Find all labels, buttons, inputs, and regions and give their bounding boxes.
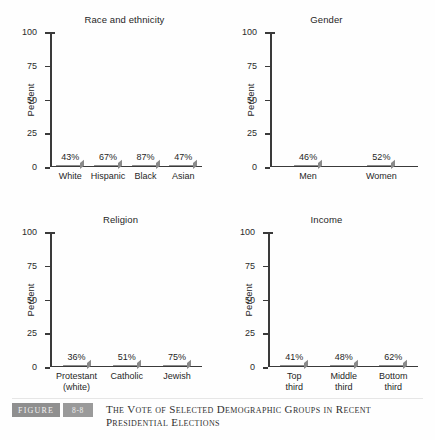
x-axis-line xyxy=(270,166,418,168)
bar-top-face xyxy=(193,159,197,168)
plot-area: Percent 100 75 50 25 0 43% xyxy=(50,32,202,167)
y-tick: 25 xyxy=(45,133,50,135)
bar-top-face xyxy=(187,359,191,368)
x-tick-label: Catholic xyxy=(102,371,152,392)
bar-slot: 87% xyxy=(127,32,165,166)
chart-title: Gender xyxy=(218,14,435,25)
y-tick: 100 xyxy=(45,232,50,234)
y-tick: 75 xyxy=(45,266,50,268)
bar[interactable]: 48% xyxy=(330,365,358,366)
x-axis-labels: White Hispanic Black Asian xyxy=(52,171,203,182)
bar-group: 46% 52% xyxy=(272,32,419,166)
bar-slot: 75% xyxy=(152,232,202,366)
bar-face xyxy=(367,165,391,166)
bar[interactable]: 36% xyxy=(63,365,91,366)
y-tick-label: 100 xyxy=(240,227,255,237)
y-tick-label: 75 xyxy=(247,61,257,71)
figure-caption-text: The Vote of Selected Demographic Groups … xyxy=(106,403,371,429)
y-tick-label: 100 xyxy=(22,27,37,37)
y-tick-label: 50 xyxy=(27,95,37,105)
bar-top-face xyxy=(304,359,308,368)
x-tick-label-line: third xyxy=(369,382,419,393)
y-tick-label: 100 xyxy=(242,27,257,37)
x-tick-label-line: Catholic xyxy=(102,371,152,382)
bar-slot: 62% xyxy=(369,232,419,366)
bar-slot: 43% xyxy=(52,32,90,166)
bar[interactable]: 52% xyxy=(367,165,395,166)
bar-face xyxy=(94,165,118,166)
bar-top-face xyxy=(80,159,84,168)
x-axis-labels: Protestant (white) Catholic Jewish xyxy=(52,371,203,392)
bar-face xyxy=(56,165,80,166)
y-tick-label: 50 xyxy=(245,295,255,305)
bar-face xyxy=(132,165,156,166)
x-tick-label-line: Top xyxy=(270,371,320,382)
bar[interactable]: 87% xyxy=(132,165,160,166)
bar[interactable]: 67% xyxy=(94,165,122,166)
bar-face xyxy=(113,365,137,366)
x-tick-label: Hispanic xyxy=(89,171,127,182)
bar-top-face xyxy=(87,359,91,368)
x-tick-label: Bottom third xyxy=(369,371,419,392)
bar-value-label: 52% xyxy=(372,152,390,162)
bar-value-label: 67% xyxy=(99,152,117,162)
y-tick-label: 75 xyxy=(245,261,255,271)
bar-face xyxy=(163,365,187,366)
bar-top-face xyxy=(156,159,160,168)
bar-slot: 52% xyxy=(345,32,418,166)
x-tick-label: White xyxy=(52,171,90,182)
bar-group: 41% 48% xyxy=(270,232,419,366)
bar-slot: 67% xyxy=(89,32,127,166)
bar-slot: 48% xyxy=(319,232,369,366)
y-tick: 0 xyxy=(45,367,50,369)
x-axis-line xyxy=(50,366,202,368)
bar-top-face xyxy=(118,159,122,168)
bar[interactable]: 41% xyxy=(280,365,308,366)
bar-face xyxy=(294,165,318,166)
y-tick: 100 xyxy=(45,32,50,34)
figure-number-badge: 8-8 xyxy=(63,403,93,417)
x-tick-label: Middle third xyxy=(319,371,369,392)
bar[interactable]: 75% xyxy=(163,365,191,366)
x-tick-label: Asian xyxy=(164,171,202,182)
x-tick-label-line: Bottom xyxy=(369,371,419,382)
caption-line: The Vote of Selected Demographic Groups … xyxy=(106,403,371,416)
caption-line: Presidential Elections xyxy=(106,416,371,429)
chart-panel-income: Income Percent 100 75 50 25 0 41% xyxy=(218,200,435,399)
bar[interactable]: 47% xyxy=(169,165,197,166)
y-tick: 25 xyxy=(263,333,268,335)
bar[interactable]: 46% xyxy=(294,165,322,166)
x-tick-label: Women xyxy=(345,171,418,182)
x-tick-label-line: Protestant xyxy=(52,371,102,382)
bar-face xyxy=(169,165,193,166)
bar-value-label: 47% xyxy=(174,152,192,162)
y-tick: 75 xyxy=(45,66,50,68)
y-tick-label: 25 xyxy=(27,128,37,138)
y-tick-label: 0 xyxy=(32,362,37,372)
y-tick-label: 25 xyxy=(247,128,257,138)
y-tick-label: 0 xyxy=(252,162,257,172)
bar-slot: 36% xyxy=(52,232,102,366)
bar[interactable]: 51% xyxy=(113,365,141,366)
figure-caption: FIGURE 8-8 The Vote of Selected Demograp… xyxy=(0,398,435,440)
bar[interactable]: 43% xyxy=(56,165,84,166)
bar-top-face xyxy=(318,159,322,168)
y-tick: 75 xyxy=(265,66,270,68)
bar-top-face xyxy=(354,359,358,368)
bar-slot: 47% xyxy=(164,32,202,166)
chart-panel-grid: Race and ethnicity Percent 100 75 50 25 … xyxy=(0,0,435,398)
bar-slot: 46% xyxy=(272,32,345,166)
plot-area: Percent 100 75 50 25 0 46% xyxy=(270,32,418,167)
bar-value-label: 75% xyxy=(168,352,186,362)
bar-group: 43% 67% xyxy=(52,32,203,166)
bar-face xyxy=(330,365,354,366)
x-tick-label: Jewish xyxy=(152,371,202,392)
bar-value-label: 62% xyxy=(384,352,402,362)
bar[interactable]: 62% xyxy=(379,365,407,366)
y-tick: 50 xyxy=(263,300,268,302)
y-tick: 0 xyxy=(45,167,50,169)
chart-panel-religion: Religion Percent 100 75 50 25 0 36% xyxy=(0,200,217,399)
bar-value-label: 87% xyxy=(137,152,155,162)
bar-slot: 51% xyxy=(102,232,152,366)
y-tick: 25 xyxy=(45,333,50,335)
